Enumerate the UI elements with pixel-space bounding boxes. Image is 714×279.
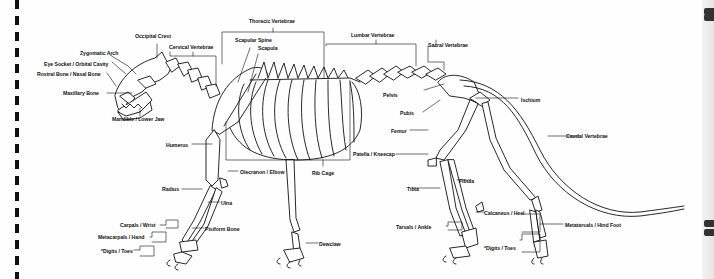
label-femur: Femur (391, 128, 407, 134)
lumbar-vertebrae (356, 66, 446, 84)
label-ulna: Ulna (221, 200, 232, 206)
diagram-page: Occipital Crest Zygomatic Arch Eye Socke… (0, 0, 714, 279)
label-ischium: Ischium (521, 97, 540, 103)
front-leg (167, 130, 228, 270)
label-mandible: Mandible / Lower Jaw (112, 116, 164, 122)
hind-leg (428, 100, 548, 264)
label-digits-hind: *Digits / Toes (484, 245, 516, 251)
label-carpals: Carpals / Wrist (120, 222, 155, 228)
label-cervical-vertebrae: Cervical Vertebrae (169, 44, 213, 50)
label-rib-cage: Rib Cage (312, 170, 334, 176)
label-scapular-spine: Scapular Spine (235, 37, 272, 43)
label-tibia: Tibia (407, 186, 419, 192)
label-thoracic-vertebrae: Thoracic Vertebrae (249, 18, 295, 24)
label-patella: Patella / Kneecap (353, 151, 395, 157)
label-dewclaw: Dewclaw (319, 241, 341, 247)
label-caudal-vertebrae: Caudal Vertebrae (566, 133, 608, 139)
label-scapula: Scapula (258, 45, 278, 51)
label-occipital-crest: Occipital Crest (135, 33, 171, 39)
label-digits-front: *Digits / Toes (101, 248, 133, 254)
label-lumbar-vertebrae: Lumbar Vertebrae (351, 32, 394, 38)
label-pisiform: Pisiform Bone (205, 226, 240, 232)
cervical-vertebrae (166, 58, 220, 98)
middle-leg (277, 160, 304, 268)
label-radius: Radius (162, 186, 179, 192)
label-pubis: Pubis (400, 110, 414, 116)
thoracic-spines (250, 62, 360, 82)
label-sacral-vertebrae: Sacral Vertebrae (428, 42, 468, 48)
label-pelvis: Pelvis (383, 92, 398, 98)
label-metacarpals: Metacarpals / Hand (98, 234, 144, 240)
label-tarsals: Tarsals / Ankle (396, 224, 431, 230)
label-metatarsals: Metatarsals / Hind Foot (565, 222, 621, 228)
label-olecranon: Olecranon / Elbow (240, 169, 284, 175)
label-maxillary-bone: Maxillary Bone (63, 90, 99, 96)
skull (115, 52, 172, 120)
label-humerus: Humerus (166, 142, 188, 148)
label-calcaneus: Calcaneus / Heel (484, 210, 524, 216)
label-fibula: Fibula (459, 178, 474, 184)
label-eye-socket: Eye Socket / Orbital Cavity (44, 61, 108, 67)
label-zygomatic-arch: Zygomatic Arch (80, 50, 118, 56)
label-rostral-bone: Rostral Bone / Nasal Bone (37, 71, 101, 77)
